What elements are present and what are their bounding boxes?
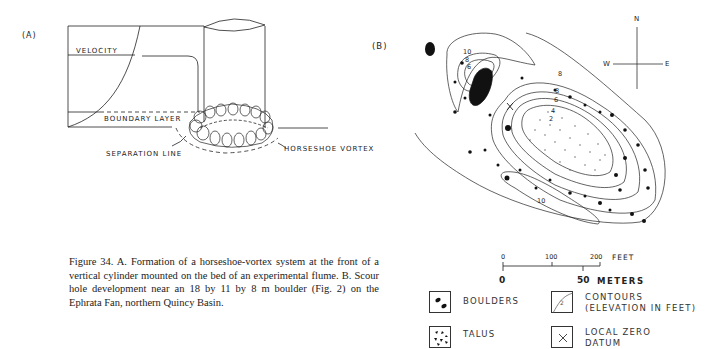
contour-label: 8 (558, 70, 562, 78)
legend-datum-symbol (551, 326, 573, 348)
legend-datum-label-line2: DATUM (585, 338, 651, 349)
panel-b-label: (B) (372, 41, 387, 51)
legend-talus-symbol (429, 326, 451, 348)
scour-hole-map (415, 27, 665, 271)
legend-contours-label-line1: CONTOURS (585, 292, 696, 303)
legend-contours-symbol: 2 (551, 291, 573, 313)
contour-label: 10 (537, 197, 545, 205)
contour-label: 6 (467, 63, 471, 71)
scale-meters-unit: METERS (597, 276, 645, 286)
talus-icon (430, 327, 452, 349)
contour-label: 10 (463, 48, 471, 56)
separation-line-label: SEPARATION LINE (106, 150, 182, 158)
scale-feet-unit: FEET (612, 253, 634, 262)
scale-feet-100: 100 (545, 253, 557, 261)
legend-boulders-symbol (429, 291, 451, 313)
horseshoe-vortex-label: HORSESHOE VORTEX (284, 145, 374, 153)
scale-meters-0: 0 (499, 275, 505, 285)
legend-talus-label: TALUS (463, 329, 495, 340)
compass-north: N (634, 15, 639, 23)
legend-datum-label-line1: LOCAL ZERO (585, 327, 651, 338)
scale-bar (503, 262, 600, 271)
contour-label: 8 (555, 87, 559, 95)
boundary-layer-label: BOUNDARY LAYER (104, 115, 181, 123)
compass-east: E (665, 60, 669, 68)
boulders-icon (430, 292, 452, 314)
contour-line-icon: 2 (552, 292, 574, 314)
contour-label: 2 (549, 115, 553, 123)
legend-contours-label: CONTOURS (ELEVATION IN FEET) (585, 292, 696, 314)
x-mark-icon (552, 327, 574, 349)
panel-a-label: (A) (22, 31, 37, 40)
compass-west: W (603, 60, 610, 68)
scale-feet-200: 200 (590, 253, 602, 261)
compass-rose (613, 27, 663, 89)
legend-datum-label: LOCAL ZERO DATUM (585, 327, 651, 349)
figure-caption: Figure 34. A. Formation of a horseshoe-v… (69, 255, 379, 309)
contour-label: 4 (551, 107, 555, 115)
legend-contours-label-line2: (ELEVATION IN FEET) (585, 303, 696, 314)
horseshoe-vortex-diagram (68, 19, 328, 153)
svg-text:2: 2 (560, 299, 564, 306)
legend-boulders-label: BOULDERS (463, 296, 519, 307)
scale-feet-0: 0 (501, 253, 505, 261)
scale-meters-50: 50 (577, 275, 590, 285)
contour-label: 6 (554, 96, 558, 104)
velocity-label: VELOCITY (76, 47, 118, 55)
